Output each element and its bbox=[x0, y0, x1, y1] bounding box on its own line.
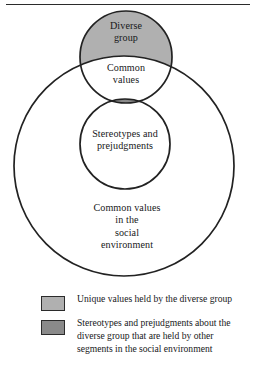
legend: Unique values held by the diverse group … bbox=[0, 292, 256, 361]
legend-item: Stereotypes and prejudgments about the d… bbox=[0, 316, 256, 356]
legend-swatch-unique-values bbox=[41, 296, 65, 311]
label-social-environment: Common valuesin thesocialenvironment bbox=[68, 202, 186, 251]
label-common-values: Commonvalues bbox=[84, 62, 168, 85]
label-stereotypes-prejudgments: Stereotypes andprejudgments bbox=[64, 128, 186, 151]
legend-label: Stereotypes and prejudgments about the d… bbox=[77, 316, 245, 356]
legend-label: Unique values held by the diverse group bbox=[77, 292, 232, 305]
label-diverse-group: Diversegroup bbox=[86, 20, 166, 43]
legend-item: Unique values held by the diverse group bbox=[0, 292, 256, 311]
legend-swatch-stereotypes bbox=[41, 320, 65, 335]
venn-diagram-figure: Diversegroup Commonvalues Stereotypes an… bbox=[0, 0, 256, 388]
